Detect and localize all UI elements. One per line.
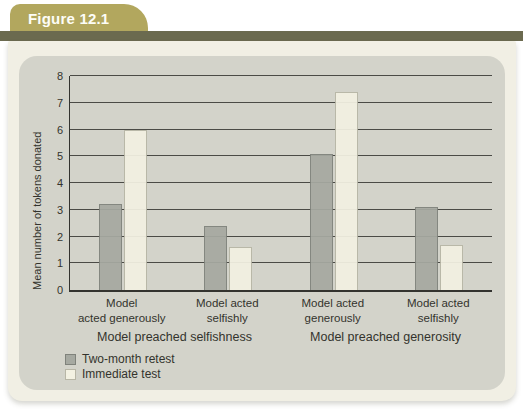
x-category-label-line: Model <box>69 296 175 311</box>
bar-groups <box>70 76 492 290</box>
y-tick: 2 <box>57 231 63 243</box>
y-axis-ticks: 012345678 <box>47 76 65 290</box>
outer-panel: Mean number of tokens donated 012345678 … <box>8 41 516 401</box>
x-category-label-line: generously <box>280 311 386 326</box>
bar-group <box>176 76 282 290</box>
y-tick: 5 <box>57 150 63 162</box>
x-category-label-line: Model acted <box>386 296 492 311</box>
x-category-label-line: acted generously <box>69 311 175 326</box>
bar-immediate-test <box>229 247 252 290</box>
bar-two-month-retest <box>415 207 438 290</box>
y-tick: 4 <box>57 177 63 189</box>
legend: Two-month retestImmediate test <box>65 352 175 382</box>
bar-two-month-retest <box>204 226 227 290</box>
x-category-label: Modelacted generously <box>69 296 175 326</box>
legend-item: Immediate test <box>65 367 175 381</box>
y-tick: 6 <box>57 124 63 136</box>
x-group-label: Model preached generosity <box>280 330 491 344</box>
bar-immediate-test <box>335 92 358 290</box>
x-category-label-line: Model acted <box>280 296 386 311</box>
y-tick: 7 <box>57 97 63 109</box>
bar-group <box>387 76 493 290</box>
y-tick: 3 <box>57 204 63 216</box>
legend-swatch <box>65 354 76 365</box>
plot-area <box>69 76 492 292</box>
bar-immediate-test <box>440 245 463 290</box>
x-category-label: Model actedgenerously <box>280 296 386 326</box>
y-tick: 1 <box>57 257 63 269</box>
figure-tab: Figure 12.1 <box>10 4 148 32</box>
bar-two-month-retest <box>99 204 122 290</box>
figure-label: Figure 12.1 <box>10 4 148 33</box>
x-category-label-line: selfishly <box>386 311 492 326</box>
x-group-label: Model preached selfishness <box>69 330 280 344</box>
bar-immediate-test <box>124 130 147 291</box>
bar-group <box>281 76 387 290</box>
x-category-label-line: selfishly <box>175 311 281 326</box>
legend-swatch <box>65 369 76 380</box>
legend-label: Immediate test <box>82 367 161 381</box>
chart-card: Mean number of tokens donated 012345678 … <box>19 56 505 390</box>
header-strip <box>0 31 523 41</box>
bar-two-month-retest <box>310 154 333 290</box>
y-axis-title: Mean number of tokens donated <box>31 76 43 290</box>
x-category-label: Model actedselfishly <box>175 296 281 326</box>
x-axis-labels: Modelacted generouslyModel actedselfishl… <box>69 296 491 326</box>
y-tick: 8 <box>57 70 63 82</box>
x-category-label: Model actedselfishly <box>386 296 492 326</box>
y-tick: 0 <box>57 284 63 296</box>
figure-12-1: Figure 12.1 Mean number of tokens donate… <box>0 0 523 409</box>
legend-label: Two-month retest <box>82 352 175 366</box>
legend-item: Two-month retest <box>65 352 175 366</box>
x-category-label-line: Model acted <box>175 296 281 311</box>
bar-group <box>70 76 176 290</box>
x-axis-group-labels: Model preached selfishnessModel preached… <box>69 330 491 344</box>
